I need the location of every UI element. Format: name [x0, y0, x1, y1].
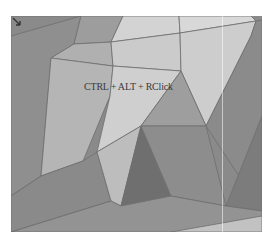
- guide-line: [222, 16, 223, 232]
- 3d-viewport[interactable]: CTRL + ALT + RClick: [11, 16, 262, 232]
- arrow-cursor-icon: [11, 16, 23, 28]
- polygon-mesh[interactable]: [11, 16, 262, 232]
- shortcut-hint-label: CTRL + ALT + RClick: [84, 81, 173, 92]
